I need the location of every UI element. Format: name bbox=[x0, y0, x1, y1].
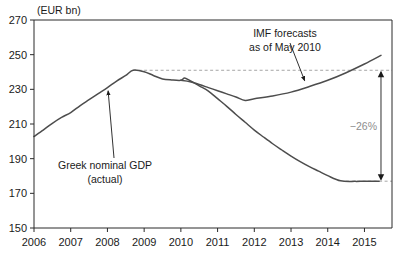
x-axis-tick-label: 2006 bbox=[22, 236, 46, 248]
imf-forecast-annotation-text: as of May 2010 bbox=[249, 41, 321, 53]
x-axis-tick-label: 2013 bbox=[279, 236, 303, 248]
y-axis-unit-label: (EUR bn) bbox=[37, 4, 81, 16]
x-axis-tick-label: 2008 bbox=[95, 236, 119, 248]
actual-gdp-annotation-text: Greek nominal GDP bbox=[58, 159, 152, 171]
actual-gdp-annotation-text: (actual) bbox=[87, 173, 122, 185]
y-axis-tick-label: 230 bbox=[9, 83, 27, 95]
y-axis-tick-label: 150 bbox=[9, 222, 27, 234]
chart-container: 270250230210190170150 200620072008200920… bbox=[0, 0, 405, 259]
x-axis-tick-label: 2015 bbox=[352, 236, 376, 248]
y-axis-tick-label: 210 bbox=[9, 118, 27, 130]
y-axis-tick-label: 190 bbox=[9, 153, 27, 165]
x-axis-tick-label: 2012 bbox=[242, 236, 266, 248]
y-axis-tick-label: 170 bbox=[9, 187, 27, 199]
chart-plot-area bbox=[34, 20, 392, 228]
y-axis-tick-label: 270 bbox=[9, 14, 27, 26]
plot-background bbox=[34, 20, 392, 228]
x-axis-tick-label: 2009 bbox=[132, 236, 156, 248]
x-axis-ticks: 2006200720082009201020112012201320142015 bbox=[22, 228, 377, 248]
y-axis-tick-label: 250 bbox=[9, 49, 27, 61]
line-chart: 270250230210190170150 200620072008200920… bbox=[0, 0, 405, 259]
y-axis-ticks: 270250230210190170150 bbox=[9, 14, 34, 234]
x-axis-tick-label: 2011 bbox=[206, 236, 230, 248]
x-axis-tick-label: 2007 bbox=[58, 236, 82, 248]
gap-percentage-label: −26% bbox=[350, 120, 377, 132]
x-axis-tick-label: 2014 bbox=[316, 236, 340, 248]
x-axis-tick-label: 2010 bbox=[169, 236, 193, 248]
imf-forecast-annotation-text: IMF forecasts bbox=[253, 27, 317, 39]
